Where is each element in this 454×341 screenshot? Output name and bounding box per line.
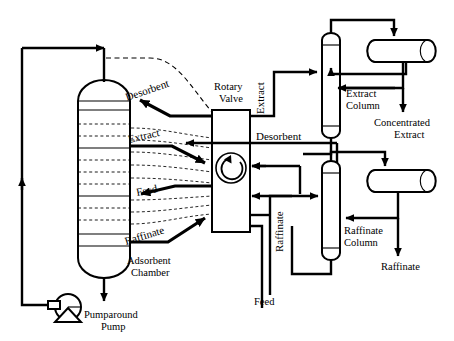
extract-line-label: Extract	[254, 82, 266, 114]
desorbent-port-line	[140, 100, 212, 116]
rotary-valve-body[interactable]	[212, 110, 250, 232]
extract-column-reflux-line	[331, 62, 406, 74]
desorbent-line-label: Desorbent	[256, 130, 301, 142]
feed-inlet-label: Feed	[254, 296, 275, 307]
raffinate-product-label: Raffinate	[381, 261, 420, 272]
raffinate-column-label-line2: Column	[344, 237, 379, 248]
raffinate-line-label: Raffinate	[273, 211, 285, 252]
pfd-canvas: Desorbent Extract Feed Raffinate Extract…	[0, 0, 454, 341]
adsorbent-chamber-label-line1: Adsorbent	[127, 255, 171, 266]
pumparound-pump-label-line1: Pumparound	[84, 309, 138, 320]
raffinate-drum-vessel	[367, 170, 435, 192]
feed-inlet-line	[250, 166, 270, 295]
pumparound-pump-symbol	[48, 294, 81, 322]
concentrated-extract-label-line2: Extract	[394, 129, 424, 140]
adsorbent-chamber-label-line2: Chamber	[131, 267, 170, 278]
feed-port-label: Feed	[135, 182, 159, 198]
extract-drum-vessel	[367, 40, 435, 62]
extract-column-label-line2: Column	[346, 100, 381, 111]
extract-port-line	[131, 146, 205, 163]
concentrated-extract-label-line1: Concentrated	[374, 117, 431, 128]
raffinate-column-vessel	[322, 161, 340, 260]
rotary-valve-label-line2: Valve	[219, 93, 243, 104]
extract-port-label: Extract	[127, 126, 161, 145]
extract-column-overhead-line	[331, 20, 394, 36]
adsorbent-chamber-vessel	[78, 80, 130, 278]
extract-column-label-line1: Extract	[346, 88, 376, 99]
desorbent-port-label: Desorbent	[124, 77, 171, 103]
process-flow-diagram: Desorbent Extract Feed Raffinate Extract…	[0, 0, 454, 341]
pumparound-pump-label-line2: Pump	[101, 321, 126, 332]
extract-column-vessel	[322, 33, 340, 138]
extract-column-bottoms-line	[303, 138, 331, 154]
raffinate-column-label-line1: Raffinate	[344, 225, 383, 236]
rotary-valve-label-line1: Rotary	[214, 81, 243, 92]
valve-right-inlet-arrows	[252, 166, 300, 196]
